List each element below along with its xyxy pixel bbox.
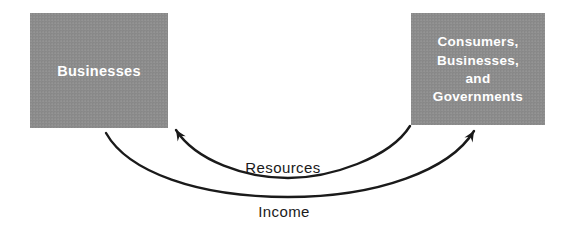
box-businesses-label: Businesses	[57, 63, 141, 79]
box-consumers-line-4: Governments	[433, 88, 523, 106]
box-consumers-businesses-governments: Consumers, Businesses, and Governments	[411, 13, 545, 125]
arrow-label-resources: Resources	[0, 159, 568, 176]
box-consumers-line-1: Consumers,	[437, 33, 518, 51]
arrow-label-income: Income	[0, 203, 569, 220]
box-businesses: Businesses	[30, 13, 168, 128]
box-consumers-line-2: Businesses,	[437, 52, 519, 70]
box-consumers-line-3: and	[466, 70, 491, 88]
